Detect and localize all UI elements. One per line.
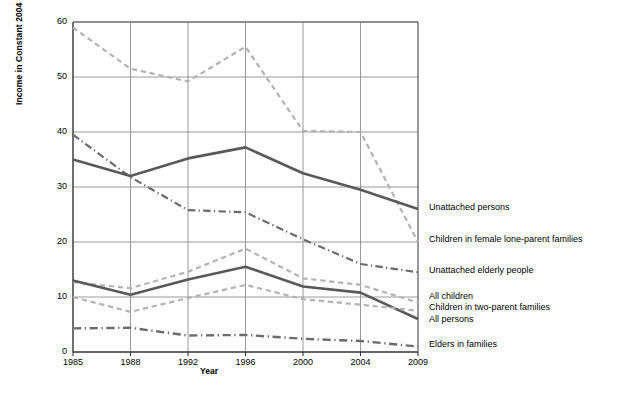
y-tick-label: 10 (41, 291, 67, 301)
x-tick-label: 2000 (283, 357, 323, 367)
x-tick-label: 2004 (341, 357, 381, 367)
series-label-4: All persons (429, 314, 474, 324)
series-label-6: Elders in families (429, 339, 497, 349)
y-tick-label: 40 (41, 126, 67, 136)
y-tick-label: 0 (41, 346, 67, 356)
series-label-1: Unattached elderly people (429, 265, 534, 275)
x-tick-label: 1996 (226, 357, 266, 367)
series-label-5: Children in two-parent families (429, 302, 550, 312)
line-chart-plot (0, 0, 621, 395)
series-label-2: Unattached persons (429, 202, 510, 212)
y-tick-label: 30 (41, 181, 67, 191)
y-tick-label: 50 (41, 71, 67, 81)
y-tick-label: 20 (41, 236, 67, 246)
x-tick-label: 1988 (111, 357, 151, 367)
x-tick-label: 1985 (53, 357, 93, 367)
x-tick-label: 1992 (168, 357, 208, 367)
chart-container: Income in Constant 2004 Dollars Year 010… (0, 0, 621, 395)
series-label-3: All children (429, 291, 473, 301)
x-tick-label: 2009 (398, 357, 438, 367)
y-tick-label: 60 (41, 16, 67, 26)
series-label-0: Children in female lone-parent families (429, 234, 583, 244)
